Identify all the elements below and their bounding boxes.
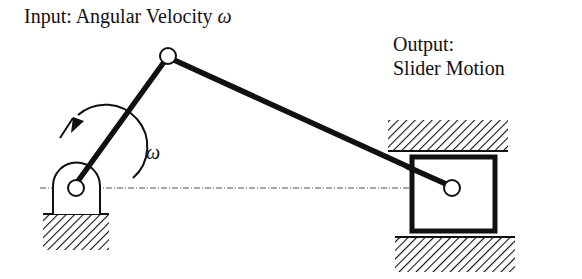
- crank-omega-label: ω: [146, 140, 160, 164]
- input-omega-symbol: ω: [218, 5, 232, 27]
- input-label: Input: Angular Velocity ω: [24, 4, 232, 28]
- lower-guide-ground: [395, 237, 515, 272]
- ground-pivot-joint: [68, 180, 84, 196]
- output-label-line1: Output:: [393, 32, 454, 56]
- slider-pin-joint: [444, 180, 460, 196]
- input-label-text: Input: Angular Velocity: [24, 5, 213, 27]
- crank-coupler-joint: [160, 48, 176, 64]
- output-label-line2: Slider Motion: [393, 56, 505, 80]
- upper-guide-ground: [388, 120, 508, 151]
- mechanism-drawing: [0, 0, 582, 279]
- left-ground: [43, 214, 109, 250]
